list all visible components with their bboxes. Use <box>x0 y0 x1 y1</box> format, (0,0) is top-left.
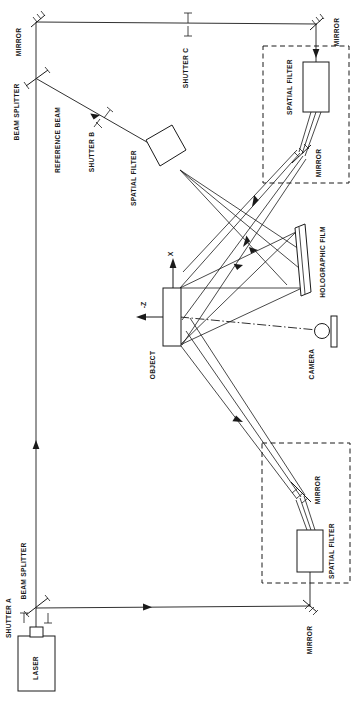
optical-setup-figure: X -Z LASER SHUTTER A BEAM SPLITTER <box>0 0 355 704</box>
beam-left-vertical <box>33 22 40 608</box>
mirror-top-left-label: MIRROR <box>15 28 22 57</box>
beam-top-horizontal <box>36 22 317 24</box>
beam-upper-filter-feed <box>313 24 320 62</box>
axis-z-label: -Z <box>140 301 147 308</box>
spatial-filter-upper[interactable] <box>303 62 329 112</box>
holographic-film <box>295 224 311 296</box>
axis-x-label: X <box>167 251 174 256</box>
spatial-filter-lower-label: SPATIAL FILTER <box>328 523 335 579</box>
camera-label: CAMERA <box>308 349 315 380</box>
shutter-a-label: SHUTTER A <box>5 598 12 638</box>
beam-splitter-bottom[interactable] <box>24 595 50 617</box>
reference-beam-label: REFERENCE BEAM <box>54 107 61 173</box>
spatial-filter-reference[interactable] <box>146 125 186 166</box>
mirror-top-right[interactable] <box>310 14 324 30</box>
object <box>163 288 181 346</box>
shutter-b-label: SHUTTER B <box>88 132 95 172</box>
reference-beam-cone <box>180 170 305 285</box>
shutter-c[interactable] <box>184 13 192 36</box>
beam-bottom-horizontal <box>36 604 310 611</box>
spatial-filter-upper-label: SPATIAL FILTER <box>286 59 293 115</box>
mirror-lower-box-label: MIRROR <box>314 476 321 505</box>
shutter-c-label: SHUTTER C <box>182 48 189 88</box>
mirror-bottom-right-label: MIRROR <box>306 626 313 655</box>
holographic-film-label: HOLOGRAPHIC FILM <box>319 226 326 298</box>
mirror-top-right-label: MIRROR <box>333 18 340 47</box>
object-to-film-beams <box>180 232 302 345</box>
laser-label: LASER <box>32 656 39 680</box>
beam-splitter-top[interactable] <box>24 67 50 89</box>
beam-splitter-bottom-label: BEAM SPLITTER <box>20 542 27 599</box>
mirror-upper-box-label: MIRROR <box>315 149 322 178</box>
spatial-filter-lower[interactable] <box>297 530 323 572</box>
spatial-filter-reference-label: SPATIAL FILTER <box>130 150 137 206</box>
mirror-bottom-right[interactable] <box>303 600 318 615</box>
beam-splitter-top-label: BEAM SPLITTER <box>13 83 20 140</box>
object-label: OBJECT <box>149 351 156 380</box>
lower-illumination-cone <box>181 318 315 530</box>
camera-optical-axis <box>180 317 317 330</box>
camera <box>315 316 338 347</box>
mirror-top-left[interactable] <box>31 11 45 27</box>
